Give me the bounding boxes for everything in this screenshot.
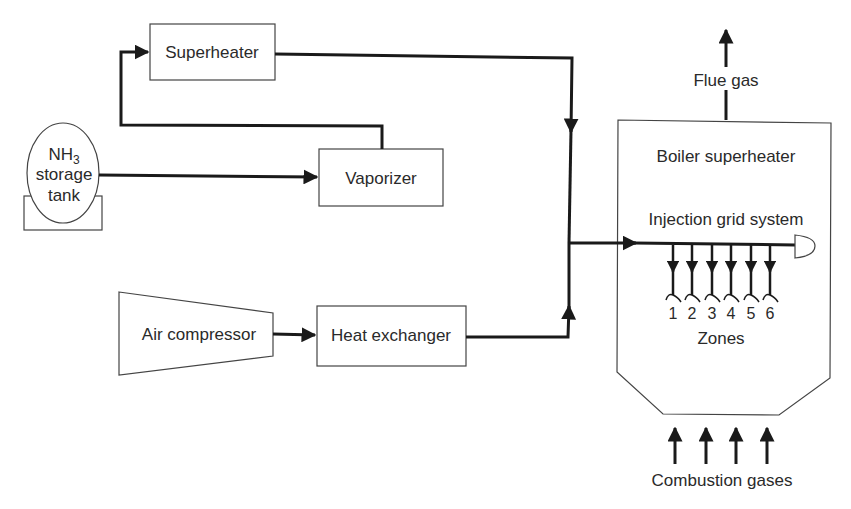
zone-6-label: 6	[766, 306, 775, 322]
tank-to-vaporizer-pipe	[99, 175, 317, 177]
superheater-label: Superheater	[165, 44, 259, 61]
tank-label-line1: NH3	[48, 146, 79, 166]
flue-gas-label: Flue gas	[693, 72, 758, 89]
injection-grid-header	[634, 243, 795, 245]
superheater-outlet-pipe	[275, 54, 572, 132]
vaporizer-label: Vaporizer	[345, 170, 417, 187]
compressor-to-exchanger-pipe	[273, 334, 315, 335]
tank-label-line2: storage	[36, 166, 93, 183]
combustion-gases-label: Combustion gases	[652, 472, 793, 489]
zone-2-label: 2	[688, 306, 697, 322]
heat-exchanger-label: Heat exchanger	[331, 327, 451, 344]
exchanger-outlet-pipe	[466, 306, 569, 337]
air-compressor-label: Air compressor	[142, 326, 256, 343]
boiler-label: Boiler superheater	[657, 148, 796, 165]
zones-label: Zones	[697, 330, 744, 347]
zone-3-label: 3	[708, 306, 717, 322]
zone-4-label: 4	[727, 306, 736, 322]
zone-5-label: 5	[747, 306, 756, 322]
combustion-gas-arrows	[675, 428, 767, 464]
injection-grid-label: Injection grid system	[649, 211, 804, 228]
zone-1-label: 1	[669, 306, 678, 322]
tank-label-line3: tank	[48, 187, 80, 204]
